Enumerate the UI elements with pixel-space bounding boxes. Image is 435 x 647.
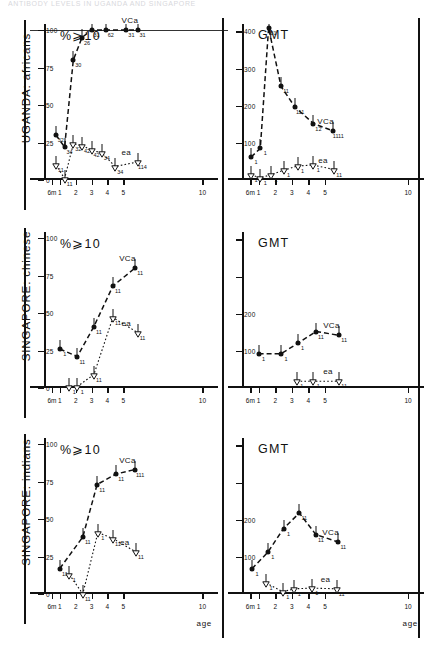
- data-point-n-label: 1111: [333, 133, 344, 139]
- data-point-n-label: 32: [58, 137, 64, 143]
- series-label-ea: ea: [122, 319, 132, 328]
- data-point-n-label: 30: [75, 62, 81, 68]
- x-tick: [250, 388, 251, 393]
- data-point-n-label: 26: [84, 40, 90, 46]
- panel-gmt-row2: GMT1002006m1234510111111111VCa111111eaag…: [228, 428, 426, 634]
- x-tick-label: 6m: [47, 603, 56, 610]
- data-point-n-label: 1: [264, 150, 267, 156]
- x-tick-label: 5: [323, 603, 327, 610]
- plot-area: 02550751006m12345103234302631623131VCa11…: [44, 24, 212, 180]
- x-tick-label: 10: [199, 189, 206, 196]
- x-tick-label: 3: [290, 189, 294, 196]
- data-point-n-label: 1: [81, 389, 84, 395]
- x-tick-label: 10: [404, 397, 411, 404]
- x-tick: [123, 594, 124, 599]
- data-point-n-label: 11: [118, 476, 124, 482]
- x-tick-label: 4: [106, 397, 110, 404]
- data-point-n-label: 1: [301, 168, 304, 174]
- data-point-n-label: 11: [96, 377, 102, 383]
- column-divider-rule: [222, 18, 224, 638]
- x-tick: [325, 180, 326, 185]
- data-point-n-label: 11: [85, 539, 91, 545]
- data-point-n-label: 11: [115, 288, 121, 294]
- data-point-vca: [249, 154, 254, 159]
- data-point-vca: [57, 347, 62, 352]
- series-line-vca: [251, 28, 333, 157]
- data-point-vca: [265, 550, 270, 555]
- x-tick-label: 3: [290, 603, 294, 610]
- x-tick: [107, 388, 108, 393]
- x-tick: [292, 180, 293, 185]
- x-tick-label: 4: [307, 189, 311, 196]
- x-tick-label: 1: [257, 603, 261, 610]
- series-label-vca: VCa: [119, 254, 136, 263]
- x-tick: [92, 594, 93, 599]
- data-point-n-label: 31: [139, 32, 145, 38]
- data-point-n-label: 11: [336, 172, 342, 178]
- data-point-n-label: 12: [315, 126, 321, 132]
- x-tick-label: 10: [404, 603, 411, 610]
- x-tick-label: 6m: [246, 397, 255, 404]
- data-point-n-label: 1: [255, 159, 258, 165]
- x-tick: [52, 594, 53, 599]
- plot-area: 02550751006m1234510111111111VCa11111111e…: [44, 232, 212, 388]
- data-point-n-label: 11: [140, 335, 146, 341]
- x-tick-label: 4: [307, 603, 311, 610]
- series-line-vca: [56, 30, 138, 147]
- series-lines: [242, 232, 418, 388]
- series-label-ea: ea: [323, 367, 333, 376]
- data-point-n-label: 34: [117, 169, 123, 175]
- data-point-n-label: 1: [284, 356, 287, 362]
- x-tick-label: 4: [307, 397, 311, 404]
- x-tick-label: 5: [323, 189, 327, 196]
- data-point-n-label: 1: [301, 345, 304, 351]
- x-tick-label: 2: [273, 397, 277, 404]
- data-point-n-label: 1: [63, 351, 66, 357]
- data-point-vca: [295, 341, 300, 346]
- data-point-n-label: 1: [275, 177, 278, 183]
- data-point-n-label: 1: [262, 356, 265, 362]
- data-point-n-label: 11: [301, 515, 307, 521]
- x-tick: [123, 180, 124, 185]
- x-tick-label: 3: [90, 397, 94, 404]
- x-tick-label: 1: [58, 603, 62, 610]
- data-point-n-label: 11: [283, 88, 289, 94]
- row-divider-rule: [24, 228, 26, 418]
- x-tick: [250, 594, 251, 599]
- data-point-n-label: 11: [138, 554, 144, 560]
- x-tick: [76, 594, 77, 599]
- x-tick-label: 10: [199, 603, 206, 610]
- x-tick: [60, 388, 61, 393]
- x-axis-name: age: [197, 619, 212, 628]
- data-point-n-label: 11: [318, 334, 324, 340]
- y-tick: [38, 388, 44, 389]
- data-point-n-label: 11: [115, 320, 121, 326]
- series-label-vca: VCa: [119, 456, 136, 465]
- x-tick-label: 6m: [47, 189, 56, 196]
- data-point-n-label: 11: [341, 383, 347, 389]
- data-point-n-label: 11: [339, 591, 345, 597]
- data-point-n-label: 11: [137, 270, 143, 276]
- data-point-n-label: 1: [255, 571, 258, 577]
- data-point-n-label: 1: [300, 383, 303, 389]
- x-tick-label: 1: [58, 397, 62, 404]
- right-frame-rule: [418, 18, 420, 638]
- data-point-n-label: 1: [315, 590, 318, 596]
- plot-area: 1002006m1234510111111111VCa111111ea: [242, 438, 418, 594]
- data-point-n-label: 1: [286, 594, 289, 600]
- x-tick: [202, 180, 203, 185]
- series-label-ea: ea: [321, 575, 331, 584]
- x-tick-label: 2: [273, 189, 277, 196]
- x-tick: [308, 180, 309, 185]
- data-point-n-label: 1: [317, 383, 320, 389]
- x-tick: [259, 388, 260, 393]
- series-label-vca: VCa: [322, 528, 339, 537]
- data-point-vca: [281, 526, 286, 531]
- x-tick-label: 6m: [246, 189, 255, 196]
- data-point-vca: [256, 351, 261, 356]
- series-label-ea: ea: [318, 156, 328, 165]
- data-point-n-label: 62: [108, 32, 114, 38]
- data-point-n-label: 31: [271, 30, 277, 36]
- x-tick: [202, 594, 203, 599]
- x-tick-label: 6m: [246, 603, 255, 610]
